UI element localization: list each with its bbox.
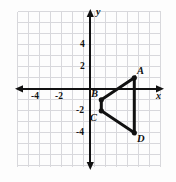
vertex-label-c: C xyxy=(90,113,97,124)
y-tick-label-4: 4 xyxy=(80,40,85,50)
vertex-label-b: B xyxy=(91,89,98,100)
graph-figure: y x -4 -2 4 2 -2 -4 A B C D xyxy=(0,0,176,182)
point-b xyxy=(99,97,104,102)
x-tick-label-neg2: -2 xyxy=(55,92,63,102)
vertex-label-d: D xyxy=(137,134,145,145)
vertex-points xyxy=(99,75,137,135)
vertex-label-a: A xyxy=(137,66,144,77)
y-tick-label-neg4: -4 xyxy=(76,128,84,138)
quadrilateral-abcd xyxy=(101,78,134,133)
y-axis-label: y xyxy=(96,7,100,17)
y-tick-label-neg2: -2 xyxy=(76,106,84,116)
x-tick-label-neg4: -4 xyxy=(31,92,39,102)
point-c xyxy=(99,108,104,113)
x-axis-left-arrow xyxy=(15,85,23,92)
y-axis-up-arrow xyxy=(87,9,94,17)
y-tick-label-2: 2 xyxy=(80,62,85,72)
coordinate-plane-svg xyxy=(0,0,176,182)
x-axis-label: x xyxy=(156,91,161,101)
